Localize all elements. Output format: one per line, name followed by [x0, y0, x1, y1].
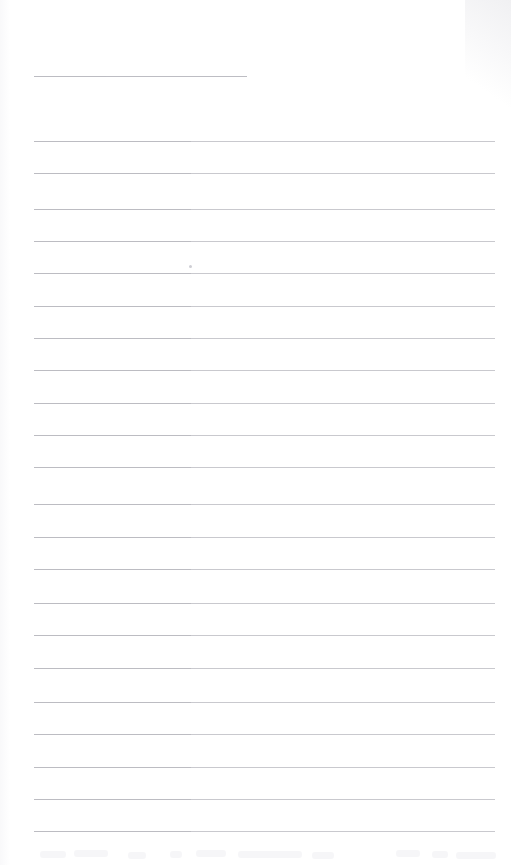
- bleed-through-mark: [238, 851, 302, 858]
- rule-line: [34, 668, 495, 669]
- rule-line: [34, 306, 495, 307]
- rule-line: [34, 141, 495, 142]
- rule-line: [34, 467, 495, 468]
- bleed-through-mark: [456, 852, 496, 859]
- title-rule-line: [34, 76, 247, 77]
- rule-line: [34, 635, 495, 636]
- rule-line: [34, 435, 495, 436]
- rule-line: [34, 209, 495, 210]
- page-corner-shading: [465, 0, 511, 120]
- bleed-through-mark: [396, 850, 420, 857]
- rule-line: [34, 403, 495, 404]
- bleed-through-mark: [40, 851, 66, 858]
- rule-line: [34, 799, 495, 800]
- rule-line: [34, 173, 495, 174]
- rule-line: [34, 241, 495, 242]
- rule-line: [34, 338, 495, 339]
- scanned-page: [0, 0, 511, 865]
- rule-line: [34, 734, 495, 735]
- rule-line: [34, 603, 495, 604]
- rule-line: [34, 504, 495, 505]
- page-left-edge-shadow: [0, 0, 10, 865]
- rule-line: [34, 537, 495, 538]
- bleed-through-mark: [170, 851, 182, 858]
- bleed-through-mark: [432, 851, 448, 858]
- rule-line: [34, 569, 495, 570]
- rule-line: [34, 273, 495, 274]
- ink-speck: [189, 265, 192, 268]
- bleed-through-mark: [128, 852, 146, 859]
- rule-line: [34, 702, 495, 703]
- bleed-through-mark: [196, 850, 226, 857]
- bleed-through-mark: [74, 850, 108, 857]
- rule-line: [34, 831, 495, 832]
- rule-line: [34, 370, 495, 371]
- rule-line: [34, 767, 495, 768]
- bleed-through-mark: [312, 852, 334, 859]
